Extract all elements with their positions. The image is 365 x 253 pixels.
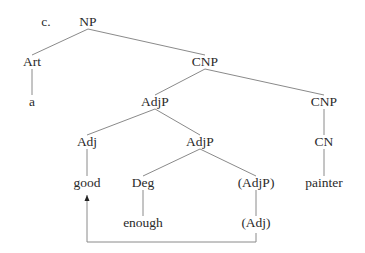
syntax-tree-diagram: c. NP Art a CNP AdjP CNP Adj AdjP CN goo… [0, 0, 365, 253]
node-np: NP [79, 14, 96, 30]
movement-arrow [87, 195, 256, 242]
node-cnp-lower: CNP [311, 94, 337, 110]
arrowhead-icon [85, 195, 90, 201]
node-cn: CN [315, 134, 334, 150]
node-a: a [29, 94, 35, 110]
node-adjp-inner: AdjP [186, 134, 214, 150]
branch-line [155, 109, 200, 135]
branch-line [32, 29, 88, 55]
example-label: c. [41, 14, 50, 30]
branch-line [143, 149, 200, 176]
node-adjp-trace: (AdjP) [238, 175, 275, 191]
branch-line [88, 29, 205, 55]
branch-line [87, 109, 155, 135]
node-cnp: CNP [192, 54, 218, 70]
tree-edges [0, 0, 365, 253]
branch-line [155, 69, 205, 95]
node-art: Art [23, 54, 41, 70]
node-good: good [74, 175, 101, 191]
node-adj-trace: (Adj) [241, 215, 270, 231]
node-adj: Adj [77, 134, 97, 150]
branch-line [200, 149, 256, 176]
node-deg: Deg [132, 175, 155, 191]
node-painter: painter [305, 175, 342, 191]
node-adjp: AdjP [141, 94, 169, 110]
node-enough: enough [123, 215, 163, 231]
branch-line [205, 69, 324, 95]
